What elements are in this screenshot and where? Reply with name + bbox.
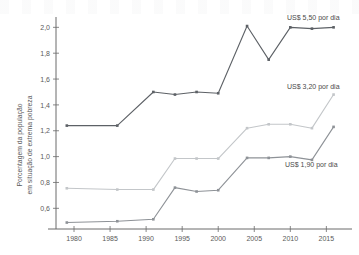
axis-tick-marks xyxy=(53,27,326,232)
series-data-point xyxy=(217,157,220,160)
x-tick-label: 1980 xyxy=(66,235,82,242)
series-data-point xyxy=(195,157,198,160)
series-line xyxy=(67,95,334,190)
x-tick-label: 2015 xyxy=(319,235,335,242)
series-data-point xyxy=(311,27,314,30)
series-data-point xyxy=(332,93,335,96)
y-tick-label: 1,8 xyxy=(40,50,50,57)
series-data-point xyxy=(267,157,270,160)
series-2 xyxy=(66,93,335,191)
x-tick-label: 1990 xyxy=(138,235,154,242)
x-tick-label: 2005 xyxy=(246,235,262,242)
series-label-1: US$ 5,50 por dia xyxy=(287,14,340,22)
x-tick-label: 1995 xyxy=(174,235,190,242)
series-data-point xyxy=(289,123,292,126)
x-tick-label: 2000 xyxy=(210,235,226,242)
y-tick-label: 1,0 xyxy=(40,153,50,160)
poverty-line-chart: Porcentagem da população em situação de … xyxy=(0,0,359,255)
y-tick-label: 1,6 xyxy=(40,76,50,83)
series-data-point xyxy=(195,91,198,94)
x-tick-label: 2010 xyxy=(283,235,299,242)
y-axis-tick-labels: 0,60,81,01,21,41,61,82,0 xyxy=(40,24,50,212)
series-data-point xyxy=(267,58,270,61)
y-tick-label: 2,0 xyxy=(40,24,50,31)
series-label-2: US$ 3,20 por dia xyxy=(287,83,340,91)
series-inline-labels: US$ 5,50 por diaUS$ 3,20 por diaUS$ 1,90… xyxy=(285,14,340,169)
series-data-point xyxy=(246,127,249,130)
y-tick-label: 0,8 xyxy=(40,179,50,186)
series-data-point xyxy=(332,126,335,129)
y-axis-title-line2: em situação de extrema pobreza xyxy=(26,95,34,194)
series-1 xyxy=(66,25,335,127)
series-data-point xyxy=(116,124,119,127)
series-3 xyxy=(66,126,335,224)
series-data-point xyxy=(289,155,292,158)
series-label-3: US$ 1,90 por dia xyxy=(285,161,338,169)
series-data-point xyxy=(246,157,249,160)
series-data-point xyxy=(152,188,155,191)
series-data-point xyxy=(116,220,119,223)
series-data-point xyxy=(332,26,335,29)
series-data-point xyxy=(152,91,155,94)
series-line xyxy=(67,26,334,126)
scan-artifact-band xyxy=(0,0,359,14)
y-tick-label: 1,4 xyxy=(40,102,50,109)
y-axis-title: Porcentagem da população em situação de … xyxy=(16,95,34,194)
y-tick-label: 0,6 xyxy=(40,205,50,212)
series-data-point xyxy=(217,92,220,95)
series-data-point xyxy=(66,187,69,190)
series-data-point xyxy=(267,123,270,126)
x-axis-tick-labels: 19801985199019952000200520102015 xyxy=(66,235,334,242)
series-data-point xyxy=(311,127,314,130)
series-data-point xyxy=(116,188,119,191)
series-data-point xyxy=(152,218,155,221)
series-line xyxy=(67,127,334,223)
series-data-point xyxy=(66,124,69,127)
series-data-point xyxy=(66,221,69,224)
y-axis-title-line1: Porcentagem da população xyxy=(16,103,24,186)
series-data-point xyxy=(174,93,177,96)
series-data-point xyxy=(174,186,177,189)
chart-canvas: Porcentagem da população em situação de … xyxy=(0,0,359,255)
series-data-point xyxy=(217,189,220,192)
x-tick-label: 1985 xyxy=(102,235,118,242)
series-data-point xyxy=(174,157,177,160)
series-data-point xyxy=(289,26,292,29)
series-data-point xyxy=(195,190,198,193)
y-tick-label: 1,2 xyxy=(40,127,50,134)
series-layer xyxy=(66,25,335,224)
series-data-point xyxy=(246,25,249,28)
